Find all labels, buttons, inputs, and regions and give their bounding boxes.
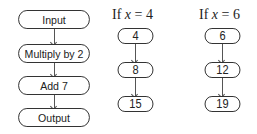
arrow-down-icon (135, 78, 136, 96)
arrow-down-icon (54, 95, 55, 108)
value-input: 4 (118, 28, 154, 44)
value-output: 15 (118, 96, 154, 112)
arrow-down-icon (222, 78, 223, 96)
step-add: Add 7 (18, 76, 90, 95)
value-output: 19 (205, 96, 241, 112)
header-prefix: If (199, 7, 212, 22)
value-input: 6 (205, 28, 241, 44)
example-header: If x = 6 (199, 7, 240, 23)
step-input: Input (18, 10, 90, 29)
value-doubled: 8 (118, 62, 154, 78)
step-output: Output (18, 108, 90, 127)
header-prefix: If (112, 7, 125, 22)
arrow-down-icon (54, 63, 55, 76)
header-suffix: = 6 (218, 7, 240, 22)
arrow-down-icon (54, 29, 55, 44)
arrow-down-icon (222, 44, 223, 62)
value-doubled: 12 (205, 62, 241, 78)
example-header: If x = 4 (112, 7, 153, 23)
arrow-down-icon (135, 44, 136, 62)
header-suffix: = 4 (131, 7, 153, 22)
step-multiply: Multiply by 2 (18, 44, 90, 63)
